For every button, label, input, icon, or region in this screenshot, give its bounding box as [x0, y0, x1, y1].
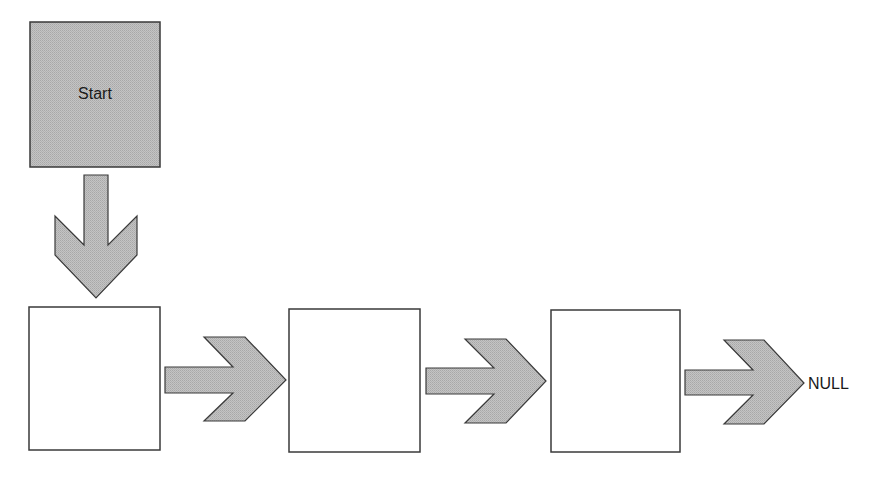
list-node-3 [551, 310, 680, 452]
list-node-2 [289, 309, 420, 452]
null-terminator-label: NULL [808, 375, 849, 392]
start-label: Start [78, 85, 112, 102]
list-node-1 [29, 307, 160, 450]
down-arrow-icon [55, 175, 137, 298]
linked-list-diagram: Start NULL [0, 0, 881, 478]
right-arrow-icon [685, 340, 804, 424]
start-box: Start [30, 22, 160, 167]
right-arrow-icon [426, 339, 546, 423]
right-arrow-icon [165, 337, 286, 421]
